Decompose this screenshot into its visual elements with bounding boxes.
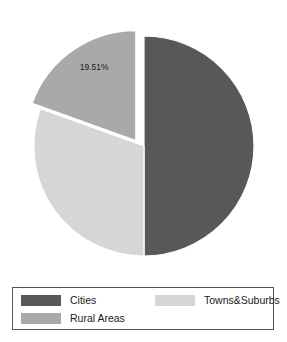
legend-row-2: Rural Areas xyxy=(13,310,273,326)
legend-swatch-cities xyxy=(21,295,61,306)
legend-item-cities[interactable]: Cities xyxy=(13,294,155,306)
chart-legend: Cities Towns&Suburbs Rural Areas xyxy=(12,287,274,330)
slice-label-rural-areas: 19.51% xyxy=(80,62,109,72)
legend-item-rural-areas[interactable]: Rural Areas xyxy=(13,312,155,324)
pie-slice-cities[interactable] xyxy=(144,36,254,256)
pie-chart-area: 19.51% xyxy=(0,0,287,280)
pie-chart-svg: 19.51% xyxy=(0,0,287,280)
legend-swatch-rural-areas xyxy=(21,313,61,324)
legend-label-rural-areas: Rural Areas xyxy=(70,312,125,324)
legend-label-cities: Cities xyxy=(70,294,96,306)
legend-row-1: Cities Towns&Suburbs xyxy=(13,292,273,308)
legend-label-towns-suburbs: Towns&Suburbs xyxy=(204,294,280,306)
legend-item-towns-suburbs[interactable]: Towns&Suburbs xyxy=(155,294,273,306)
legend-swatch-towns-suburbs xyxy=(155,295,195,306)
